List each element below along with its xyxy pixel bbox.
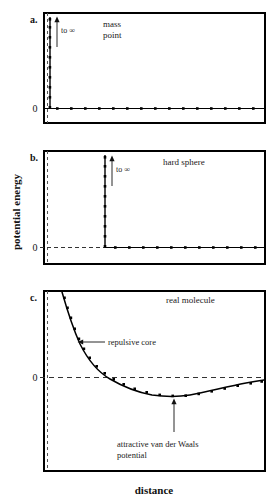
panel-b-title-line1: hard sphere [163, 157, 205, 167]
panel-a-zero-label: 0 [33, 103, 38, 114]
panel-c-zero-label: 0 [33, 372, 38, 383]
panel-a-title-line2: point [103, 30, 122, 40]
figure-canvas: to ∞ a. 0 mass point [0, 0, 279, 504]
potential-energy-figure: to ∞ a. 0 mass point [0, 0, 279, 504]
figure-background [0, 0, 279, 504]
panel-c-attractive-label-line1: attractive van der Waals [117, 439, 199, 449]
panel-c-attractive-label-line2: potential [117, 450, 147, 460]
y-axis-title: potential energy [10, 173, 22, 250]
panel-a-infinity-label: to ∞ [61, 26, 75, 35]
panel-b-infinity-label: to ∞ [116, 165, 130, 174]
panel-c-repulsive-core-label: repulsive core [108, 337, 156, 347]
panel-a-baseline-markers [56, 107, 255, 110]
panel-a-title-line1: mass [103, 19, 121, 29]
panel-c-title-line1: real molecule [166, 295, 215, 305]
panel-c-letter: c. [30, 292, 37, 303]
panel-b-letter: b. [30, 152, 39, 163]
panel-a-letter: a. [30, 14, 38, 25]
x-axis-title: distance [135, 484, 174, 496]
panel-b-zero-label: 0 [33, 242, 38, 253]
